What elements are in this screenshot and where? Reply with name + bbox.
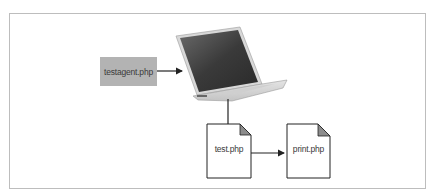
node-testagent: testagent.php <box>100 57 157 86</box>
diagram-canvas <box>0 0 437 195</box>
laptop-icon <box>176 27 287 101</box>
node-print-label: print.php <box>287 144 330 154</box>
node-test-label: test.php <box>207 144 251 154</box>
node-testagent-label: testagent.php <box>104 67 153 77</box>
